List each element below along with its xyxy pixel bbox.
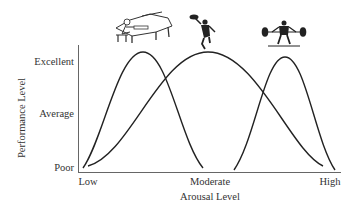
y-tick-poor: Poor [54,162,74,173]
x-tick-low: Low [78,176,98,187]
performance-arousal-chart: Excellent Average Poor Low Moderate High… [0,0,357,215]
basketball-player-icon [190,15,216,50]
x-tick-high: High [320,176,342,187]
x-axis-title: Arousal Level [180,191,240,202]
piano-player-icon [116,12,172,43]
y-tick-excellent: Excellent [34,56,74,67]
curve-weightlifter [234,57,335,170]
x-tick-moderate: Moderate [190,176,231,187]
y-axis-title: Performance Level [16,78,27,158]
weightlifter-icon [262,21,307,47]
y-tick-average: Average [39,108,74,119]
curve-basketball [88,52,323,166]
